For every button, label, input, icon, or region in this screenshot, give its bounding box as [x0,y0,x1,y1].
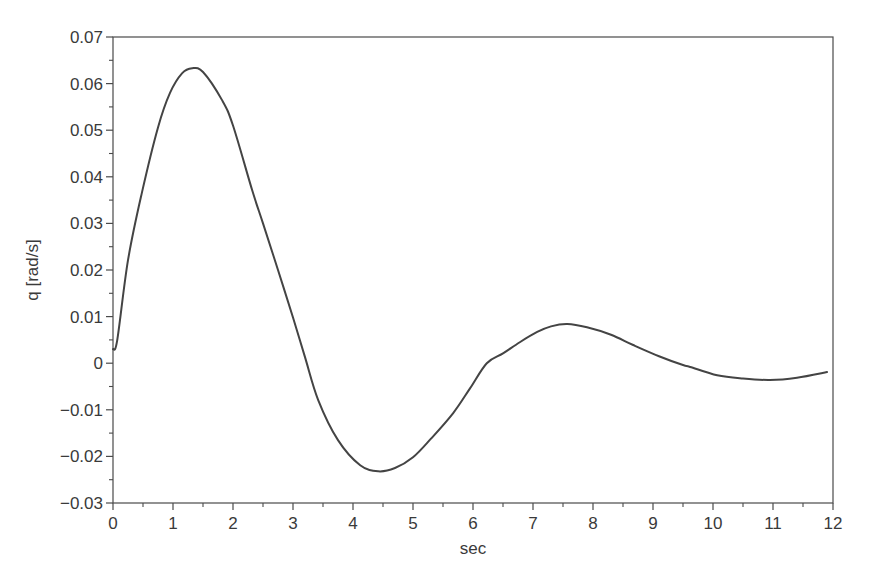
plot-area-frame [113,37,833,503]
x-tick-label: 1 [168,514,177,533]
series-line-q [113,68,827,472]
x-tick-label: 4 [348,514,357,533]
y-tick-label: 0.06 [70,75,103,94]
x-tick-label: 6 [468,514,477,533]
x-axis-label: sec [460,539,487,558]
y-tick-label: 0.07 [70,28,103,47]
x-tick-label: 0 [108,514,117,533]
x-tick-label: 11 [764,514,782,533]
y-tick-label: 0.02 [70,261,103,280]
chart: 0123456789101112 −0.03−0.02−0.0100.010.0… [0,0,873,575]
plot-frame [113,37,833,503]
y-axis-label: q [rad/s] [23,239,42,300]
y-tick-label: −0.03 [60,494,103,513]
y-tick-label: 0.05 [70,121,103,140]
line-chart: 0123456789101112 −0.03−0.02−0.0100.010.0… [0,0,873,575]
x-tick-label: 5 [408,514,417,533]
y-tick-label: 0.01 [70,308,103,327]
y-axis-ticks: −0.03−0.02−0.0100.010.020.030.040.050.06… [60,28,113,513]
x-axis-ticks: 0123456789101112 [108,503,842,533]
x-tick-label: 10 [704,514,723,533]
x-tick-label: 8 [588,514,597,533]
x-tick-label: 3 [288,514,297,533]
series-layer [113,68,827,472]
x-tick-label: 12 [824,514,843,533]
y-tick-label: 0 [94,354,103,373]
y-tick-label: 0.03 [70,214,103,233]
x-tick-label: 2 [228,514,237,533]
y-tick-label: −0.02 [60,447,103,466]
x-tick-label: 9 [648,514,657,533]
y-tick-label: −0.01 [60,401,103,420]
x-tick-label: 7 [528,514,537,533]
y-tick-label: 0.04 [70,168,103,187]
